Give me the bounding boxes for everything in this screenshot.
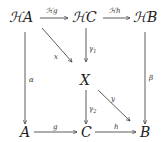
label-gamma2: γ2 [89, 106, 96, 114]
label-g: g [53, 124, 57, 131]
node-HA: ℋA [9, 10, 33, 24]
label-x: x [54, 54, 58, 61]
node-HC: ℋC [72, 10, 97, 24]
node-X: X [80, 73, 90, 87]
label-h: h [114, 124, 119, 131]
node-HB: ℋB [133, 10, 157, 24]
node-A: A [20, 125, 30, 139]
label-Hg: ℋg [46, 8, 57, 15]
label-y: y [111, 96, 115, 103]
label-alpha: α [29, 77, 34, 84]
label-Hh: ℋh [109, 8, 121, 15]
label-beta: β [149, 75, 153, 82]
node-B: B [140, 125, 150, 139]
node-C: C [81, 125, 92, 139]
label-gamma1: γ1 [89, 46, 96, 54]
